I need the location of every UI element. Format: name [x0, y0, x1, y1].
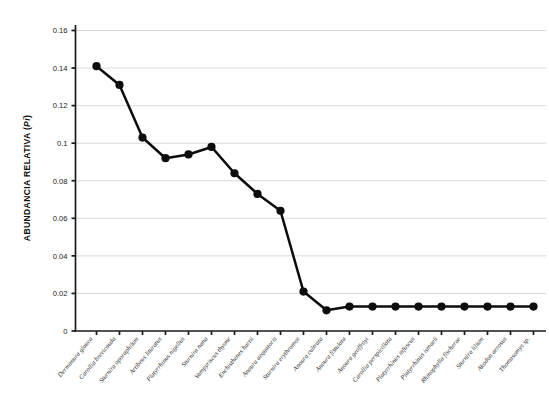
- data-point-marker: [92, 62, 100, 70]
- data-point-marker: [437, 302, 445, 310]
- y-axis-tick-label: 0.06: [53, 214, 68, 223]
- data-point-marker: [230, 169, 238, 177]
- x-axis-tick-label: Sturnira oporaphilum: [97, 335, 140, 384]
- relative-abundance-chart: 00.020.040.060.080.10.120.140.16 Dermanu…: [0, 0, 549, 406]
- data-point-marker: [345, 302, 353, 310]
- y-axis-tick-label: 0.04: [53, 252, 68, 261]
- data-point-marker: [299, 287, 307, 295]
- y-axis-tick-label: 0: [63, 327, 67, 336]
- y-axis-title: ABUNDANCIA RELATIVA (Pi): [22, 115, 32, 241]
- data-point-marker: [529, 302, 537, 310]
- gridlines: [76, 31, 547, 294]
- data-point-marker: [460, 302, 468, 310]
- y-axis-tick-label: 0.14: [53, 64, 68, 73]
- y-axis-tick-labels: 00.020.040.060.080.10.120.140.16: [53, 26, 68, 336]
- data-point-marker: [368, 302, 376, 310]
- y-axis-tick-label: 0.08: [53, 177, 68, 186]
- x-axis-tick-label: Platyrrhinus infuscus: [373, 335, 416, 384]
- y-axis-tick-label: 0.16: [53, 26, 68, 35]
- data-point-marker: [322, 306, 330, 314]
- y-axis-tick-label: 0.02: [53, 289, 68, 298]
- y-axis-tick-label: 0.12: [53, 101, 68, 110]
- x-axis-tick-label: Carollia perspicillata: [351, 335, 394, 384]
- data-point-marker: [414, 302, 422, 310]
- data-point-marker: [161, 154, 169, 162]
- data-point-marker: [253, 190, 261, 198]
- data-point-marker: [115, 81, 123, 89]
- data-point-marker: [391, 302, 399, 310]
- abundance-series-line: [97, 66, 534, 310]
- x-axis-tick-label: Platyrrhinus nigellus: [144, 335, 186, 383]
- data-point-marker: [184, 150, 192, 158]
- chart-canvas: 00.020.040.060.080.10.120.140.16 Dermanu…: [0, 0, 549, 406]
- data-point-marker: [138, 133, 146, 141]
- abundance-series-markers: [92, 62, 537, 314]
- data-point-marker: [506, 302, 514, 310]
- data-point-marker: [207, 143, 215, 151]
- x-axis-tick-labels: Dermanura glaucaCarollia brevicaudaSturn…: [55, 335, 531, 385]
- data-point-marker: [483, 302, 491, 310]
- x-axis-tick-label: Rhinophylla fischerae: [418, 335, 461, 385]
- data-point-marker: [276, 207, 284, 215]
- y-axis-tick-label: 0.1: [57, 139, 68, 148]
